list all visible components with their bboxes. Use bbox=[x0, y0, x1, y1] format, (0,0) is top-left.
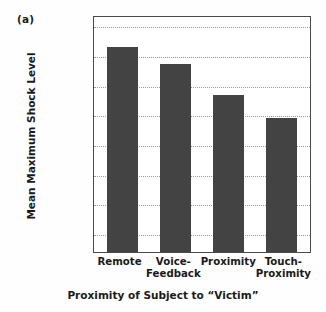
figure-panel: (a) Mean Maximum Shock Level “Slight”“Mo… bbox=[0, 0, 326, 312]
x-axis-tick-label: Remote bbox=[93, 256, 146, 268]
bar bbox=[160, 64, 191, 252]
bar-slot bbox=[202, 17, 255, 252]
x-axis-tick-label: Touch-Proximity bbox=[256, 256, 311, 281]
x-axis-tick-label: Proximity bbox=[201, 256, 256, 268]
bar-slot bbox=[255, 17, 308, 252]
bar bbox=[107, 47, 138, 252]
panel-label: (a) bbox=[17, 13, 34, 25]
bar-slot bbox=[149, 17, 202, 252]
x-axis-tick-labels: RemoteVoice-FeedbackProximityTouch-Proxi… bbox=[93, 256, 311, 286]
bar-slot bbox=[96, 17, 149, 252]
bar bbox=[213, 95, 244, 252]
x-axis-title: Proximity of Subject to “Victim” bbox=[0, 289, 326, 301]
plot-area bbox=[93, 16, 311, 253]
x-axis-tick-label: Voice-Feedback bbox=[146, 256, 201, 281]
bar bbox=[266, 118, 297, 253]
y-axis-title: Mean Maximum Shock Level bbox=[23, 31, 39, 241]
y-axis-title-text: Mean Maximum Shock Level bbox=[25, 52, 37, 219]
bar-series bbox=[94, 17, 310, 252]
